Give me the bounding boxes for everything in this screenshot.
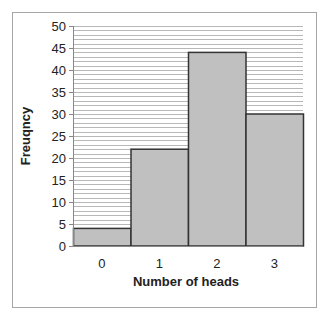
- bar-1: [131, 149, 189, 246]
- histogram-chart: 05101520253035404550 0123 Number of head…: [0, 0, 326, 319]
- y-tick-label: 40: [52, 63, 66, 78]
- y-tick-label: 20: [52, 151, 66, 166]
- y-tick-label: 10: [52, 195, 66, 210]
- bar-3: [246, 114, 304, 246]
- x-axis: 0123: [73, 247, 303, 272]
- x-tick-label: 3: [271, 256, 278, 271]
- y-axis-title: Freuqncy: [18, 106, 33, 165]
- bar-0: [74, 228, 132, 246]
- y-tick-label: 45: [52, 41, 66, 56]
- y-tick-label: 25: [52, 129, 66, 144]
- y-tick-label: 15: [52, 173, 66, 188]
- y-tick-label: 50: [52, 19, 66, 34]
- x-tick-label: 0: [98, 256, 105, 271]
- y-tick-label: 5: [59, 217, 66, 232]
- x-tick-label: 2: [213, 256, 220, 271]
- y-tick-label: 30: [52, 107, 66, 122]
- x-axis-title: Number of heads: [133, 274, 239, 289]
- x-tick-label: 1: [156, 256, 163, 271]
- y-tick-label: 0: [59, 239, 66, 254]
- y-tick-label: 35: [52, 85, 66, 100]
- y-axis: 05101520253035404550: [52, 19, 74, 254]
- bar-2: [189, 52, 247, 246]
